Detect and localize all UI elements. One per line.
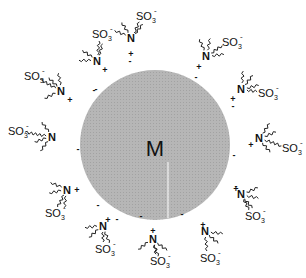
sulfonate-negative-charge: - xyxy=(63,203,66,212)
surfactant-molecule: N+SO3-- xyxy=(230,71,279,111)
alkyl-tail xyxy=(158,243,167,251)
sulfonate-negative-charge: - xyxy=(218,248,221,257)
positive-charge: + xyxy=(196,62,201,72)
positive-charge: + xyxy=(150,226,155,236)
surfactant-molecule: N+SO3-- xyxy=(233,124,304,160)
alkyl-tail xyxy=(245,76,253,85)
sulfonate-negative-charge: - xyxy=(113,239,116,248)
alkyl-tail xyxy=(209,235,218,243)
sulfonate-label: SO3 xyxy=(92,28,112,42)
micelle-diagram: M N+SO3--N+SO3--N+SO3--NSO3--N+SO3--N+SO… xyxy=(0,0,306,278)
positive-charge: + xyxy=(102,65,107,75)
surfactant-molecule: N+SO3-- xyxy=(24,66,96,105)
surfactant-molecule: N+SO3-- xyxy=(115,6,157,66)
alkyl-tail xyxy=(105,232,110,243)
sulfonate-linker xyxy=(247,89,257,92)
headgroup-n-label: N xyxy=(63,184,71,196)
positive-charge: + xyxy=(200,220,205,230)
counterion-negative-charge: - xyxy=(181,209,184,219)
sulfonate-negative-charge: - xyxy=(300,138,303,147)
sulfonate-label: SO3 xyxy=(222,36,242,50)
surfactant-molecule: N+SO3-- xyxy=(45,182,100,221)
sulfonate-label: SO3 xyxy=(245,210,265,224)
surfactant-molecule: N+SO3-- xyxy=(79,24,113,94)
core-particle: M xyxy=(80,70,230,220)
alkyl-tail xyxy=(45,93,56,98)
counterion-negative-charge: - xyxy=(93,85,96,95)
alkyl-tail xyxy=(263,143,270,153)
alkyl-tail xyxy=(247,195,259,198)
sulfonate-label: SO3 xyxy=(150,255,170,269)
alkyl-tail xyxy=(265,132,276,137)
alkyl-tail xyxy=(85,225,97,228)
sulfonate-linker xyxy=(25,131,46,136)
counterion-negative-charge: - xyxy=(195,72,198,82)
counterion-negative-charge: - xyxy=(232,101,235,111)
counterion-negative-charge: - xyxy=(77,144,80,154)
headgroup-n-label: N xyxy=(57,85,65,97)
headgroup-n-label: N xyxy=(255,132,263,144)
alkyl-tail xyxy=(207,39,210,51)
alkyl-tail xyxy=(99,44,103,55)
alkyl-tail xyxy=(40,142,48,151)
sulfonate-negative-charge: - xyxy=(42,66,45,75)
alkyl-tail xyxy=(138,242,148,249)
sulfonate-negative-charge: - xyxy=(26,121,29,130)
sulfonate-negative-charge: - xyxy=(240,32,243,41)
core-label: M xyxy=(146,136,164,161)
alkyl-tail xyxy=(247,188,258,193)
alkyl-tail xyxy=(79,59,91,62)
positive-charge: + xyxy=(105,215,110,225)
alkyl-tail xyxy=(51,182,62,187)
counterion-negative-charge: - xyxy=(235,181,238,191)
alkyl-tail xyxy=(212,54,224,57)
alkyl-tail xyxy=(241,71,244,83)
headgroup-n-label: N xyxy=(202,50,210,62)
surfactant-molecule: N+SO3-- xyxy=(85,214,119,257)
alkyl-tail xyxy=(135,25,143,34)
headgroup-n-label: N xyxy=(127,32,135,44)
positive-charge: + xyxy=(67,95,72,105)
sulfonate-label: SO3 xyxy=(282,142,302,156)
counterion-negative-charge: - xyxy=(116,214,119,224)
sulfonate-negative-charge: - xyxy=(276,83,279,92)
sulfonate-label: SO3 xyxy=(258,87,278,101)
sulfonate-label: SO3 xyxy=(45,207,65,221)
alkyl-tail xyxy=(89,230,98,238)
headgroup-n-label: N xyxy=(237,83,245,95)
positive-charge: + xyxy=(74,185,79,195)
sulfonate-label: SO3 xyxy=(136,10,156,24)
alkyl-tail xyxy=(83,50,93,57)
sulfonate-negative-charge: - xyxy=(168,251,171,260)
alkyl-tail xyxy=(115,30,126,35)
alkyl-tail xyxy=(263,124,270,134)
surfactant-molecule: NSO3-- xyxy=(8,121,80,154)
headgroup-n-label: N xyxy=(93,55,101,67)
counterion-negative-charge: - xyxy=(97,200,100,210)
counterion-negative-charge: - xyxy=(129,56,132,66)
sulfonate-label: SO3 xyxy=(200,252,220,266)
surfactant-molecule: N+SO3-- xyxy=(195,32,244,82)
sulfonate-negative-charge: - xyxy=(263,206,266,215)
sulfonate-label: SO3 xyxy=(24,70,44,84)
sulfonate-linker xyxy=(211,46,222,54)
sulfonate-linker xyxy=(97,41,100,55)
alkyl-tail xyxy=(211,232,223,235)
headgroup-n-label: N xyxy=(48,131,56,143)
sulfonate-label: SO3 xyxy=(95,243,115,257)
alkyl-tail xyxy=(58,73,62,85)
sulfonate-linker xyxy=(265,140,282,147)
surfactant-molecule: N+SO3-- xyxy=(181,209,223,266)
counterion-negative-charge: - xyxy=(140,211,143,221)
sulfonate-linker xyxy=(205,237,208,251)
sulfonate-negative-charge: - xyxy=(154,6,157,15)
alkyl-tail xyxy=(247,85,259,89)
surfactant-molecule: N+SO3-- xyxy=(233,181,266,224)
positive-charge: + xyxy=(248,140,253,150)
sulfonate-linker xyxy=(102,232,105,242)
sulfonate-negative-charge: - xyxy=(110,24,113,33)
sulfonate-label: SO3 xyxy=(8,125,28,139)
alkyl-tail xyxy=(199,39,204,50)
counterion-negative-charge: - xyxy=(233,150,236,160)
alkyl-tail xyxy=(35,138,47,142)
